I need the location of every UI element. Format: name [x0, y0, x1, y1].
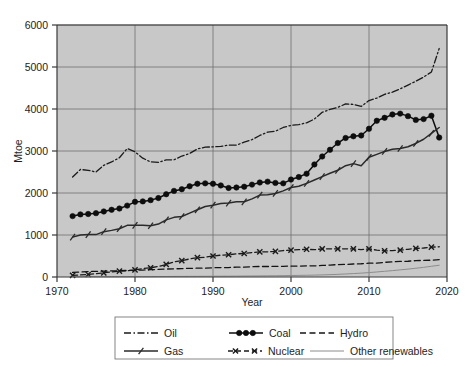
x-tick-label: 2010 — [357, 285, 381, 297]
legend-label: Oil — [164, 327, 177, 339]
x-tick-label: 2020 — [435, 285, 459, 297]
x-tick-label: 1990 — [201, 285, 225, 297]
y-tick-label: 5000 — [25, 61, 49, 73]
y-tick-label: 2000 — [25, 187, 49, 199]
x-axis-title: Year — [241, 296, 263, 308]
x-tick-label: 2000 — [279, 285, 303, 297]
chart-legend: OilCoalHydroGasNuclearOther renewables — [115, 317, 433, 359]
y-tick-label: 4000 — [25, 103, 49, 115]
y-tick-label: 1000 — [25, 229, 49, 241]
y-tick-label: 3000 — [25, 145, 49, 157]
energy-consumption-line-chart: 0100020003000400050006000 19701980199020… — [0, 0, 472, 367]
y-axis-title: Mtoe — [12, 139, 24, 163]
x-tick-label: 1970 — [45, 285, 69, 297]
chart-figure: 0100020003000400050006000 19701980199020… — [0, 0, 472, 367]
legend-label: Other renewables — [350, 345, 433, 357]
legend-label: Gas — [164, 345, 183, 357]
y-tick-label: 0 — [42, 271, 48, 283]
legend-label: Hydro — [340, 327, 368, 339]
y-tick-label: 6000 — [25, 19, 49, 31]
x-tick-label: 1980 — [123, 285, 147, 297]
legend-label: Nuclear — [268, 345, 305, 357]
legend-label: Coal — [269, 327, 291, 339]
